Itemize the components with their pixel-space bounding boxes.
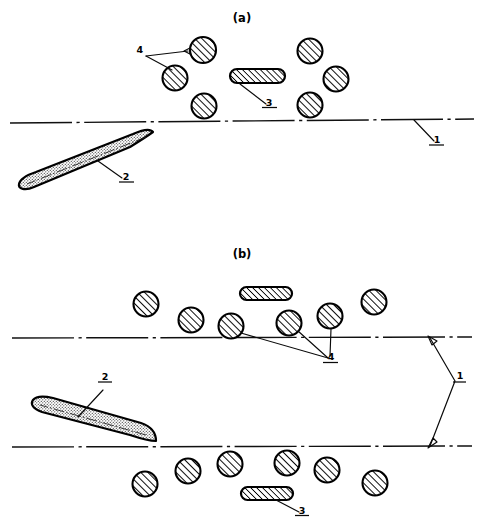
round-mine	[277, 311, 302, 336]
round-mine	[298, 39, 323, 64]
elongated-mine	[230, 69, 285, 83]
ref-label-1-panel-b: 1	[457, 370, 464, 381]
technical-figure: (a) 4 3	[0, 0, 484, 532]
round-mine	[315, 458, 340, 483]
round-mine	[324, 67, 349, 92]
round-mine	[363, 471, 388, 496]
panel-a-caption: (a)	[233, 11, 251, 25]
panel-b-caption: (b)	[233, 247, 252, 261]
round-mine	[275, 451, 300, 476]
figure-canvas: (a) 4 3	[0, 0, 484, 532]
round-mine	[362, 290, 387, 315]
round-mine	[179, 308, 204, 333]
ref-label-3-panel-a: 3	[266, 97, 273, 108]
ref-label-2-panel-b: 2	[102, 371, 109, 382]
ref-label-4-panel-a: 4	[136, 44, 143, 55]
ref-label-3-panel-b: 3	[299, 505, 306, 516]
panel-b-upper-boundary-line	[12, 337, 472, 338]
ref-label-1-panel-a: 1	[434, 134, 441, 145]
ref-label-2-panel-a: 2	[123, 171, 130, 182]
round-mine	[298, 93, 323, 118]
elongated-mine	[240, 287, 292, 300]
round-mine	[192, 94, 217, 119]
round-mine	[218, 452, 243, 477]
elongated-mine	[241, 487, 293, 500]
round-mine	[318, 304, 343, 329]
round-mine	[190, 37, 216, 63]
panel-b-lower-boundary-line	[12, 446, 472, 447]
round-mine	[176, 459, 201, 484]
round-mine	[163, 66, 188, 91]
round-mine	[133, 472, 158, 497]
round-mine	[219, 314, 244, 339]
round-mine	[134, 292, 159, 317]
ref-label-4-panel-b: 4	[328, 351, 335, 362]
